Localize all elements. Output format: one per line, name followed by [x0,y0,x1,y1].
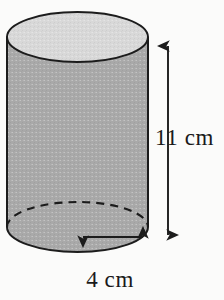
cylinder-figure: 11 cm 4 cm [0,0,224,300]
radius-dimension-label: 4 cm [0,268,224,291]
cylinder-diagram-canvas [0,0,224,300]
height-dimension-label: 11 cm [155,126,214,149]
